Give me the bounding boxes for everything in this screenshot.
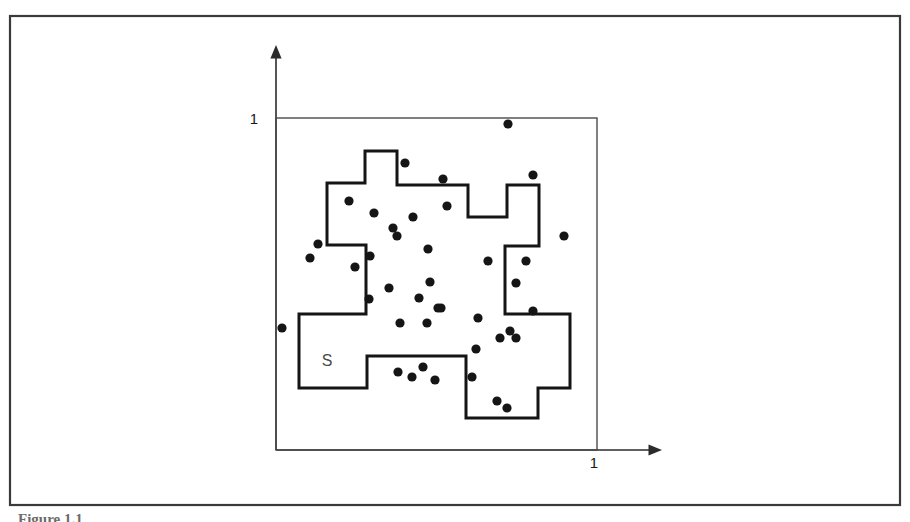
scatter-point	[422, 318, 431, 327]
scatter-point	[407, 372, 416, 381]
scatter-point	[559, 231, 568, 240]
scatter-point	[414, 293, 423, 302]
scatter-point	[502, 403, 511, 412]
y-axis-tick-label-1: 1	[250, 110, 258, 127]
figure-background	[0, 0, 910, 522]
scatter-point	[438, 174, 447, 183]
scatter-point	[425, 277, 434, 286]
scatter-point	[408, 212, 417, 221]
scatter-point	[511, 333, 520, 342]
scatter-point	[430, 375, 439, 384]
scatter-point	[305, 253, 314, 262]
scatter-point	[313, 239, 322, 248]
x-axis-tick-label-1: 1	[590, 454, 598, 471]
scatter-point	[277, 323, 286, 332]
scatter-point	[392, 231, 401, 240]
scatter-point	[442, 201, 451, 210]
scatter-point	[395, 318, 404, 327]
scatter-point	[433, 303, 442, 312]
scatter-point	[495, 333, 504, 342]
scatter-point	[467, 372, 476, 381]
scatter-point	[505, 326, 514, 335]
scatter-point	[471, 344, 480, 353]
scatter-point	[423, 244, 432, 253]
scatter-point	[473, 313, 482, 322]
scatter-point	[350, 262, 359, 271]
figure-root: 1 1 S Figure 1.1	[0, 0, 910, 522]
scatter-point	[344, 196, 353, 205]
scatter-point	[503, 119, 512, 128]
figure-canvas: 1 1 S	[0, 0, 910, 522]
scatter-point	[521, 256, 530, 265]
scatter-point	[400, 158, 409, 167]
scatter-point	[388, 223, 397, 232]
scatter-point	[369, 208, 378, 217]
scatter-point	[364, 294, 373, 303]
scatter-point	[528, 306, 537, 315]
scatter-point	[511, 278, 520, 287]
caption-partial-text: Figure 1.1	[18, 512, 83, 522]
scatter-point	[393, 367, 402, 376]
scatter-point	[528, 170, 537, 179]
scatter-point	[483, 256, 492, 265]
scatter-point	[384, 283, 393, 292]
scatter-point	[418, 362, 427, 371]
scatter-point	[365, 251, 374, 260]
region-s-label: S	[322, 352, 333, 369]
scatter-point	[492, 396, 501, 405]
